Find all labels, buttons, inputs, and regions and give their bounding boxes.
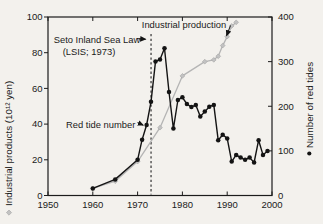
y-tick-label-left: 100 [27, 11, 43, 22]
data-point-circle [194, 103, 199, 108]
data-point-circle [189, 105, 194, 110]
x-tick-label: 1990 [217, 199, 238, 210]
data-point-circle [220, 133, 225, 138]
annotation-industrial-production: Industrial production [142, 19, 226, 30]
annotation-seto-law-line2: (LSIS; 1973) [63, 46, 116, 57]
black-circle-legend-icon [307, 151, 311, 155]
x-tick-label: 1980 [172, 199, 193, 210]
data-point-circle [247, 155, 252, 160]
data-series [90, 20, 269, 191]
gray-diamond-legend-icon [6, 210, 11, 215]
figure: 1950196019701980199020000204060801000100… [0, 0, 323, 224]
data-point-circle [216, 138, 221, 143]
data-point-circle [113, 177, 118, 182]
x-tick-label: 1970 [127, 199, 148, 210]
data-point-circle [158, 57, 163, 62]
annotation-red-tide-number: Red tide number [66, 119, 135, 130]
series-line-circle [93, 48, 268, 188]
data-point-circle [229, 159, 234, 164]
data-point-circle [261, 153, 266, 158]
data-point-circle [238, 155, 243, 160]
data-point-circle [91, 186, 96, 191]
data-point-circle [153, 59, 158, 64]
red-tide-industrial-production-chart: 1950196019701980199020000204060801000100… [0, 0, 323, 224]
data-point-circle [180, 95, 185, 100]
data-point-circle [171, 126, 176, 131]
x-tick-label: 1960 [82, 199, 103, 210]
data-point-diamond [220, 43, 225, 48]
annotation-seto-law-line1: Seto Inland Sea Law [54, 34, 141, 45]
data-point-circle [185, 102, 190, 107]
y-axis-label-right: Number of red tides [304, 62, 315, 148]
data-point-circle [225, 136, 230, 141]
data-point-circle [149, 100, 154, 105]
y-tick-label-left: 20 [32, 154, 43, 165]
data-point-circle [176, 98, 181, 103]
y-tick-label-right: 300 [278, 56, 294, 67]
data-point-circle [243, 158, 248, 163]
y-tick-label-right: 200 [278, 101, 294, 112]
y-axis-label-left: Industrial products (10¹² yen) [3, 81, 14, 206]
data-point-circle [203, 109, 208, 114]
data-point-circle [207, 104, 212, 109]
data-point-circle [234, 153, 239, 158]
data-point-circle [212, 103, 217, 108]
y-tick-label-right: 100 [278, 145, 294, 156]
y-tick-label-left: 80 [32, 47, 43, 58]
data-point-circle [252, 160, 257, 165]
data-point-circle [135, 158, 140, 163]
annotation-arrow-red-tide [138, 123, 144, 126]
y-tick-label-right: 0 [278, 190, 283, 201]
y-tick-label-right: 400 [278, 11, 294, 22]
annotation-arrow-seto-law [137, 39, 146, 40]
data-point-circle [144, 123, 149, 128]
data-point-circle [198, 114, 203, 119]
data-point-circle [162, 46, 167, 51]
y-tick-label-left: 40 [32, 118, 43, 129]
data-point-circle [167, 90, 172, 95]
data-point-circle [140, 137, 145, 142]
y-tick-label-left: 0 [37, 190, 42, 201]
y-tick-label-left: 60 [32, 83, 43, 94]
data-point-circle [256, 138, 261, 143]
